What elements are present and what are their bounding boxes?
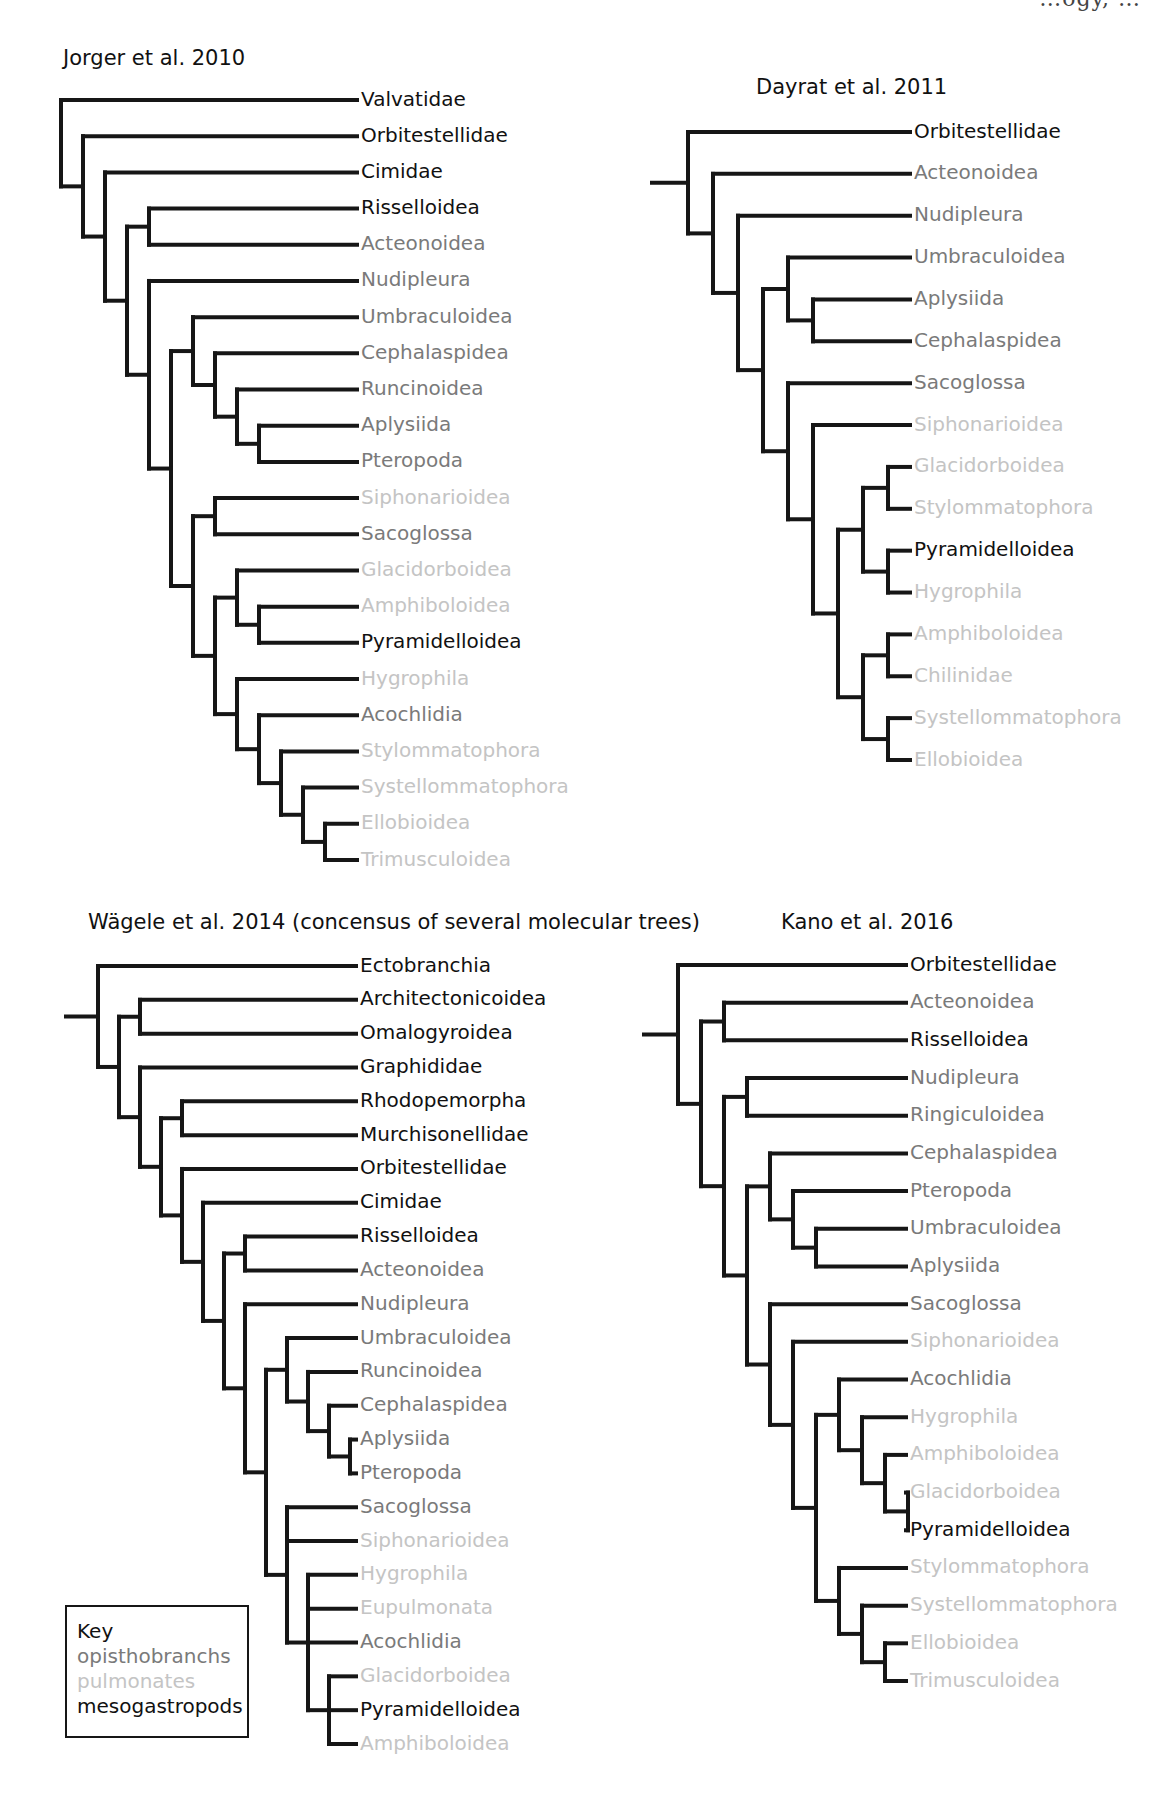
taxon-label-sacoglossa: Sacoglossa — [910, 1291, 1022, 1315]
taxon-label-ellobioidea: Ellobioidea — [910, 1630, 1019, 1654]
taxon-label-nudipleura: Nudipleura — [910, 1065, 1020, 1089]
taxon-label-orbitestellidae: Orbitestellidae — [910, 952, 1057, 976]
phylogeny-kano: OrbitestellidaeActeonoideaRisselloideaNu… — [0, 0, 1161, 1798]
taxon-label-risselloidea: Risselloidea — [910, 1027, 1029, 1051]
legend-entry-opisthobranchs: opisthobranchs — [77, 1644, 247, 1669]
legend-title: Key — [77, 1619, 247, 1644]
taxon-label-acochlidia: Acochlidia — [910, 1366, 1012, 1390]
legend-entry-mesogastropods: mesogastropods — [77, 1694, 247, 1719]
legend-entry-pulmonates: pulmonates — [77, 1669, 247, 1694]
taxon-label-stylommatophora: Stylommatophora — [910, 1554, 1090, 1578]
taxon-label-systellommatophora: Systellommatophora — [910, 1592, 1118, 1616]
taxon-label-ringiculoidea: Ringiculoidea — [910, 1102, 1045, 1126]
taxon-label-siphonarioidea: Siphonarioidea — [910, 1328, 1060, 1352]
taxon-label-cephalaspidea: Cephalaspidea — [910, 1140, 1058, 1164]
taxon-label-glacidorboidea: Glacidorboidea — [910, 1479, 1061, 1503]
taxon-label-pteropoda: Pteropoda — [910, 1178, 1012, 1202]
taxon-label-hygrophila: Hygrophila — [910, 1404, 1018, 1428]
taxon-label-pyramidelloidea: Pyramidelloidea — [910, 1517, 1071, 1541]
taxon-label-trimusculoidea: Trimusculoidea — [909, 1668, 1060, 1692]
taxon-label-acteonoidea: Acteonoidea — [910, 989, 1034, 1013]
taxon-label-umbraculoidea: Umbraculoidea — [910, 1215, 1062, 1239]
taxon-label-aplysiida: Aplysiida — [910, 1253, 1000, 1277]
taxon-label-amphiboloidea: Amphiboloidea — [910, 1441, 1060, 1465]
legend-key-box: Key opisthobranchs pulmonates mesogastro… — [65, 1605, 249, 1738]
